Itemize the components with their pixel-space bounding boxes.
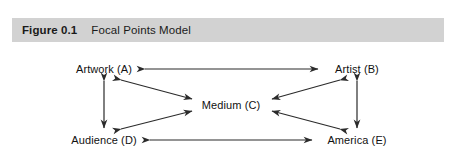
figure-container: Figure 0.1 Focal Points Model: [0, 0, 456, 151]
edge-artist-medium: [272, 80, 340, 99]
edge-artwork-medium: [121, 80, 192, 99]
edge-america-medium: [272, 111, 340, 129]
figure-title: Focal Points Model: [91, 24, 191, 36]
node-artwork: Artwork (A): [76, 63, 132, 75]
node-artist: Artist (B): [335, 63, 379, 75]
node-medium: Medium (C): [202, 99, 260, 111]
figure-number: Figure 0.1: [22, 24, 77, 36]
node-audience: Audience (D): [71, 134, 136, 146]
focal-points-diagram: Artwork (A) Artist (B) Medium (C) Audien…: [0, 48, 456, 151]
node-america: America (E): [327, 134, 386, 146]
edge-audience-medium: [121, 111, 192, 129]
figure-caption-bar: Figure 0.1 Focal Points Model: [12, 18, 444, 42]
